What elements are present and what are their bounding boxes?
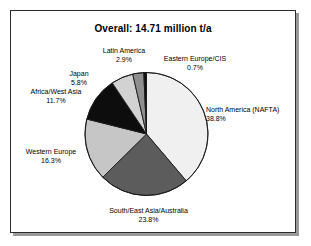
slice-label-name-south-east-asia-australia: South/East Asia/Australia xyxy=(109,207,188,214)
slice-label-pct-south-east-asia-australia: 23.8% xyxy=(86,216,211,225)
slice-label-pct-north-america: 38.8% xyxy=(206,115,279,124)
slice-label-africa-west-asia: Africa/West Asia 11.7% xyxy=(16,88,96,105)
slice-label-name-north-america: North America (NAFTA) xyxy=(206,106,279,113)
slice-label-name-western-europe: Western Europe xyxy=(26,148,76,155)
slice-label-name-japan: Japan xyxy=(69,70,88,77)
slice-label-pct-africa-west-asia: 11.7% xyxy=(16,97,96,106)
slice-label-name-africa-west-asia: Africa/West Asia xyxy=(31,88,82,95)
slice-label-eastern-europe-cis: Eastern Europe/CIS 0.7% xyxy=(152,55,238,72)
slice-label-north-america: North America (NAFTA) 38.8% xyxy=(206,106,279,123)
slice-label-name-latin-america: Latin America xyxy=(103,47,145,54)
pie-slices-group xyxy=(85,73,208,196)
slice-label-latin-america: Latin America 2.9% xyxy=(90,47,158,64)
slice-label-south-east-asia-australia: South/East Asia/Australia 23.8% xyxy=(86,207,211,224)
slice-label-pct-latin-america: 2.9% xyxy=(90,56,158,65)
slice-label-pct-japan: 5.8% xyxy=(56,79,102,88)
slice-label-name-eastern-europe-cis: Eastern Europe/CIS xyxy=(164,55,226,62)
figure-container: Overall: 14.71 million t/a North America… xyxy=(0,0,311,246)
slice-label-pct-eastern-europe-cis: 0.7% xyxy=(152,64,238,73)
slice-label-pct-western-europe: 16.3% xyxy=(12,157,90,166)
slice-label-japan: Japan 5.8% xyxy=(56,70,102,87)
slice-label-western-europe: Western Europe 16.3% xyxy=(12,148,90,165)
